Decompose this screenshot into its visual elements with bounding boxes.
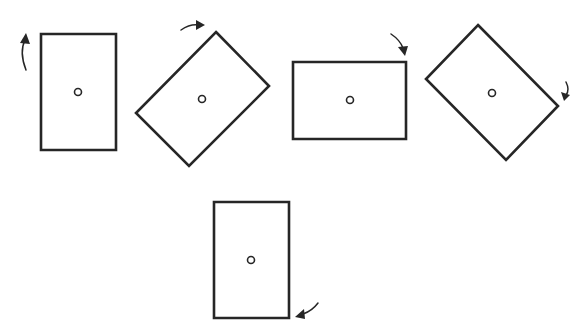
rotation-diagram: [0, 0, 577, 330]
rectangle-state-3: [293, 34, 408, 139]
pivot-point-icon: [199, 96, 206, 103]
arrowhead-icon: [295, 309, 305, 319]
rectangle-state-2: [136, 20, 269, 166]
rotation-arrow-icon: [22, 40, 26, 70]
rotation-arrow-icon: [303, 303, 318, 314]
rectangle-state-5: [214, 202, 318, 319]
rectangle-state-4: [426, 25, 570, 160]
pivot-point-icon: [75, 89, 82, 96]
rotation-arrow-icon: [566, 82, 568, 95]
arrowhead-icon: [20, 33, 30, 44]
rectangle-state-1: [20, 33, 116, 150]
arrowhead-icon: [561, 92, 570, 101]
rotation-arrow-icon: [391, 34, 403, 48]
pivot-point-icon: [347, 97, 354, 104]
rotation-arrow-icon: [181, 25, 198, 30]
pivot-point-icon: [248, 257, 255, 264]
pivot-point-icon: [489, 90, 496, 97]
arrowhead-icon: [398, 46, 408, 56]
arrowhead-icon: [196, 20, 205, 30]
